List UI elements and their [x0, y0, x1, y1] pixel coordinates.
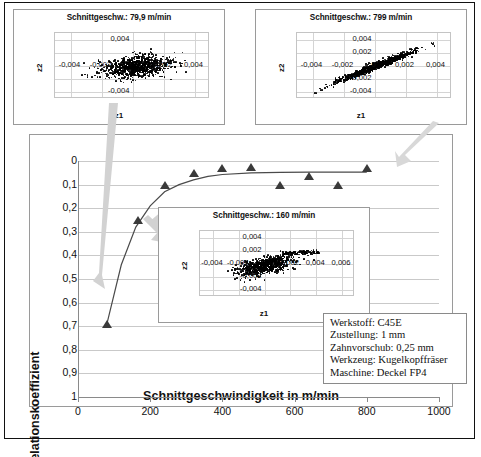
inset-y-tick: 0,002	[338, 47, 372, 56]
scatter-point	[239, 268, 241, 270]
scatter-point	[289, 254, 291, 256]
main-x-tick: 200	[120, 405, 180, 417]
scatter-point	[114, 75, 116, 77]
main-y-tick: 0,2	[45, 201, 77, 213]
main-x-tickmark	[367, 397, 368, 402]
scatter-point	[94, 75, 96, 77]
main-data-marker	[275, 181, 285, 189]
scatter-point	[142, 54, 144, 56]
scatter-point	[117, 70, 119, 72]
scatter-point	[81, 74, 83, 76]
scatter-point	[244, 281, 246, 283]
info-line-machine: Maschine: Deckel FP4	[330, 367, 461, 379]
scatter-point	[425, 49, 427, 51]
scatter-point	[115, 80, 117, 82]
inset-x-tick: 0	[357, 60, 391, 69]
scatter-point	[134, 51, 136, 53]
main-x-tickmark	[78, 397, 79, 402]
scatter-point	[144, 53, 146, 55]
scatter-point	[130, 66, 132, 68]
scatter-point	[295, 251, 297, 253]
scatter-point	[302, 253, 304, 255]
main-data-marker	[362, 164, 372, 172]
main-x-tick: 400	[192, 405, 252, 417]
scatter-point	[170, 79, 172, 81]
inset-y-tick: -0,002	[228, 271, 262, 280]
scatter-point	[161, 76, 163, 78]
main-gridline	[78, 185, 439, 186]
scatter-point	[158, 70, 160, 72]
inset-left-title: Schnittgeschw.: 79,9 m/min	[14, 13, 224, 22]
scatter-point	[98, 72, 100, 74]
inset-gridline	[200, 238, 353, 239]
inset-x-tick: 0,006	[324, 258, 358, 267]
main-data-marker	[333, 181, 343, 189]
scatter-point	[131, 71, 133, 73]
scatter-point	[137, 57, 139, 59]
scatter-point	[157, 72, 159, 74]
scatter-point	[141, 56, 143, 58]
scatter-point	[131, 66, 133, 68]
inset-gridline	[55, 40, 208, 41]
scatter-point	[263, 255, 265, 257]
scatter-point	[433, 42, 435, 44]
inset-x-tick: -0,004	[53, 60, 87, 69]
inset-y-tick: -0,004	[96, 86, 130, 95]
inset-x-tick: -0,002	[326, 60, 360, 69]
scatter-point	[434, 45, 436, 47]
inset-x-tick: 0,004	[419, 60, 453, 69]
main-x-tick: 1000	[409, 405, 469, 417]
scatter-point	[151, 53, 153, 55]
scatter-point	[400, 53, 402, 55]
scatter-point	[126, 61, 128, 63]
scatter-point	[175, 57, 177, 59]
scatter-point	[150, 48, 152, 50]
scatter-point	[155, 74, 157, 76]
scatter-point	[130, 75, 132, 77]
scatter-point	[120, 62, 122, 64]
scatter-point	[291, 252, 293, 254]
main-data-marker	[133, 216, 143, 224]
inset-y-tick: -0,002	[338, 73, 372, 82]
scatter-point	[166, 57, 168, 59]
scatter-point	[103, 70, 105, 72]
main-y-tick: 0,4	[45, 248, 77, 260]
main-y-tick: 0,6	[45, 296, 77, 308]
scatter-point	[123, 82, 125, 84]
inset-y-tick: 0,002	[228, 245, 262, 254]
inset-gridline	[55, 92, 208, 93]
main-gridline	[78, 161, 439, 162]
scatter-point	[411, 56, 413, 58]
main-x-tick: 0	[48, 405, 108, 417]
scatter-point	[281, 269, 283, 271]
scatter-point	[153, 75, 155, 77]
inset-y-tick: -0,004	[338, 86, 372, 95]
figure-frame: Schnittgeschw.: 79,9 m/min z2 z1 -0,004-…	[4, 2, 475, 439]
main-data-marker	[102, 320, 112, 328]
scatter-point	[276, 272, 278, 274]
scatter-point	[148, 75, 150, 77]
scatter-point	[185, 71, 187, 73]
scatter-point	[99, 76, 101, 78]
scatter-point	[106, 75, 108, 77]
scatter-point	[148, 56, 150, 58]
scatter-point	[151, 69, 153, 71]
scatter-point	[365, 70, 367, 72]
scatter-point	[321, 89, 323, 91]
scatter-point	[141, 62, 143, 64]
info-line-depth: Zustellung: 1 mm	[330, 329, 461, 341]
main-y-tick: 1	[45, 390, 77, 402]
main-y-tick: 0,3	[45, 225, 77, 237]
scatter-point	[91, 76, 93, 78]
main-x-tick: 600	[265, 405, 325, 417]
info-line-tool: Werkzeug: Kugelkopffräser	[330, 354, 461, 366]
scatter-point	[126, 79, 128, 81]
main-gridline	[78, 397, 439, 398]
scatter-point	[314, 92, 316, 94]
scatter-point	[325, 84, 327, 86]
scatter-point	[269, 272, 271, 274]
scatter-point	[242, 268, 244, 270]
info-line-material: Werkstoff: C45E	[330, 317, 461, 329]
scatter-point	[324, 87, 326, 89]
inset-mid-y-axis-label: z2	[180, 262, 189, 270]
